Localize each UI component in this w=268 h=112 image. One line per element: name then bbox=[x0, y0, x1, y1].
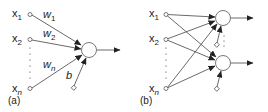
panel-a-caption: (a) bbox=[8, 95, 20, 106]
input-ellipsis-dots bbox=[165, 47, 166, 78]
input-node-x1 bbox=[28, 13, 32, 17]
bias-node-2 bbox=[214, 86, 219, 91]
connection-x1-neuron1 bbox=[167, 15, 215, 18]
ellipsis-dots bbox=[29, 47, 30, 78]
connection-xn-neuron bbox=[32, 55, 82, 88]
input-label-x1: x1 bbox=[12, 7, 23, 22]
weight-label-w1: w1 bbox=[43, 8, 56, 23]
weight-label-wn: wn bbox=[43, 58, 56, 73]
panel-b-neuron-layer: x1 x2 xn bbox=[140, 7, 253, 106]
connection-x2-neuron bbox=[32, 40, 81, 49]
connection-xn-neuron2 bbox=[167, 66, 215, 88]
connection-bias-neuron bbox=[74, 58, 86, 86]
connection-x1-neuron bbox=[32, 15, 81, 45]
connection-bias1-neuron1 bbox=[217, 26, 221, 43]
panel-a-single-neuron: x1 x2 xn w1 w2 wn b (a) bbox=[8, 7, 120, 106]
input-label-x1: x1 bbox=[149, 7, 160, 22]
neuron-node-1 bbox=[216, 11, 231, 26]
neural-network-diagram: x1 x2 xn w1 w2 wn b (a) x1 bbox=[0, 0, 268, 112]
connection-bias2-neuron2 bbox=[217, 71, 221, 87]
bias-label: b bbox=[66, 69, 72, 81]
bias-node bbox=[71, 85, 76, 90]
panel-b-caption: (b) bbox=[140, 95, 152, 106]
bias-node-1 bbox=[214, 42, 219, 47]
connection-xn-neuron1 bbox=[167, 24, 217, 88]
input-node-x2 bbox=[28, 38, 32, 42]
neuron-ellipsis-dots bbox=[223, 35, 224, 46]
weight-label-w2: w2 bbox=[43, 27, 56, 42]
input-node-xn bbox=[164, 87, 168, 91]
input-label-x2: x2 bbox=[149, 32, 160, 47]
input-label-x2: x2 bbox=[12, 32, 23, 47]
input-node-x1 bbox=[164, 13, 168, 17]
input-node-x2 bbox=[164, 38, 168, 42]
input-node-xn bbox=[28, 87, 32, 91]
neuron-node-2 bbox=[216, 56, 231, 71]
neuron-node bbox=[82, 43, 97, 58]
